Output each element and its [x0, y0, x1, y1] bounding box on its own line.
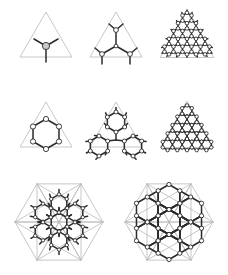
lattice-node: [34, 225, 37, 228]
lattice-node: [185, 27, 189, 31]
lattice-node: [43, 116, 48, 121]
lattice-node: [167, 257, 171, 261]
bond-group: [162, 10, 212, 57]
node-group: [161, 104, 213, 152]
lattice-node: [41, 239, 44, 242]
lattice-node: [73, 239, 76, 242]
lattice-node: [190, 34, 194, 38]
lattice-node: [171, 146, 174, 149]
lattice-node: [66, 216, 69, 219]
lattice-node: [156, 226, 160, 230]
lattice-node: [199, 226, 203, 230]
lattice-node: [195, 121, 198, 124]
lattice-node: [30, 124, 35, 129]
lattice-node: [189, 220, 193, 224]
lattice-node: [190, 14, 194, 18]
lattice-node: [199, 34, 203, 38]
lattice-node: [97, 154, 101, 158]
lattice-node: [134, 214, 138, 218]
frame-triangle: [20, 102, 72, 147]
lattice-node: [181, 29, 185, 33]
lattice-node: [199, 214, 203, 218]
lattice-node: [190, 45, 194, 49]
lattice-node: [205, 149, 208, 152]
lattice-node: [167, 182, 171, 186]
lattice-node: [106, 149, 110, 153]
lattice-node: [172, 34, 176, 38]
triangle-packed-hexagons: [152, 96, 222, 162]
lattice-node: [190, 107, 193, 110]
lattice-node: [171, 129, 174, 132]
lattice-node: [97, 134, 101, 138]
lattice-node: [203, 53, 207, 57]
lattice-node: [181, 19, 185, 23]
lattice-node: [171, 140, 174, 143]
lattice-node: [189, 195, 193, 199]
lattice-node: [195, 149, 198, 152]
lattice-node: [178, 239, 182, 243]
lattice-node: [100, 52, 105, 57]
lattice-node: [57, 230, 60, 233]
triangle-single-vertex-site: [12, 6, 80, 72]
lattice-node: [195, 137, 198, 140]
bond-group: [163, 105, 211, 150]
lattice-node: [34, 207, 37, 210]
lattice-node: [185, 149, 188, 152]
lattice-node: [163, 50, 167, 54]
frame-triangle: [160, 11, 214, 58]
lattice-node: [156, 251, 160, 255]
hexagon-seven-hexagon-flower: [118, 176, 220, 270]
hexagon-dense-honeycomb-canvas: [8, 176, 110, 270]
lattice-node: [176, 115, 179, 118]
lattice-node: [200, 146, 203, 149]
lattice-node: [178, 201, 182, 205]
lattice-node: [180, 112, 183, 115]
lattice-node: [156, 214, 160, 218]
lattice-node: [66, 234, 69, 237]
bond-group: [33, 119, 59, 149]
lattice-node: [181, 34, 185, 38]
lattice-node: [123, 125, 127, 129]
node-group: [88, 110, 143, 158]
lattice-node: [43, 146, 48, 151]
lattice-node: [205, 132, 208, 135]
lattice-node: [199, 239, 203, 243]
lattice-node: [180, 129, 183, 132]
node-group: [42, 42, 49, 49]
lattice-node: [114, 130, 118, 134]
hexagon-dense-honeycomb: [8, 176, 110, 270]
lattice-node: [176, 42, 180, 46]
lattice-node: [195, 115, 198, 118]
lattice-node: [181, 45, 185, 49]
lattice-node: [185, 132, 188, 135]
lattice-node: [185, 115, 188, 118]
lattice-node: [185, 104, 188, 107]
lattice-node: [163, 45, 167, 49]
lattice-node: [166, 137, 169, 140]
triangle-packed-hexagons-canvas: [152, 96, 222, 162]
lattice-node: [200, 129, 203, 132]
lattice-node: [56, 139, 61, 144]
lattice-node: [167, 53, 171, 57]
lattice-node: [171, 123, 174, 126]
lattice-node: [128, 52, 133, 57]
triangle-four-site-cluster-canvas: [82, 6, 150, 72]
frame-hexagon: [125, 184, 213, 260]
lattice-node: [131, 134, 135, 138]
lattice-node: [210, 140, 213, 143]
lattice-node: [161, 146, 164, 149]
triangle-single-vertex-site-canvas: [12, 6, 80, 72]
triangle-three-hexagons-canvas: [82, 96, 150, 162]
node-group: [163, 11, 212, 56]
lattice-node: [49, 216, 52, 219]
lattice-node: [41, 221, 44, 224]
lattice-node: [145, 220, 149, 224]
lattice-node: [208, 45, 212, 49]
lattice-node: [208, 50, 212, 54]
lattice-node: [66, 207, 69, 210]
lattice-node: [190, 50, 194, 54]
lattice-node: [178, 189, 182, 193]
lattice-node: [172, 29, 176, 33]
lattice-node: [199, 29, 203, 33]
lattice-node: [180, 123, 183, 126]
